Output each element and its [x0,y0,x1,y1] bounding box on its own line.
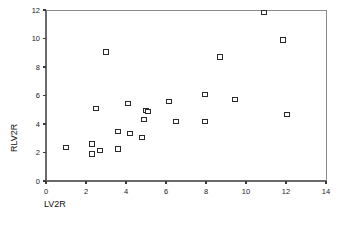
y-tick-label: 0 [36,177,40,186]
x-tick-label: 6 [164,187,168,196]
x-axis-title: LV2R [44,199,66,209]
x-tick-label: 14 [322,187,330,196]
data-point-marker [174,120,178,124]
y-tick-label: 10 [32,34,40,43]
x-tick-label: 8 [204,187,208,196]
data-point-marker [104,50,108,54]
x-tick-label: 10 [242,187,250,196]
plot-canvas: 024681012 02468101214 LV2R RLV2R [0,0,348,229]
data-point-marker [218,55,222,59]
y-tick-label: 12 [32,6,40,15]
data-point-marker [281,38,285,42]
figure-background [0,0,348,229]
data-point-marker [203,120,207,124]
data-point-marker [116,147,120,151]
y-tick-label: 4 [36,120,40,129]
y-tick-label: 6 [36,91,40,100]
y-axis-title: RLV2R [9,123,19,152]
data-point-marker [64,145,68,149]
data-point-marker [233,98,237,102]
data-point-marker [167,99,171,103]
data-point-marker [262,11,266,15]
y-tick-label: 2 [36,148,40,157]
data-point-marker [126,101,130,105]
data-point-marker [94,106,98,110]
data-point-marker [98,148,102,152]
scatter-plot-figure: 024681012 02468101214 LV2R RLV2R [0,0,348,229]
data-point-marker [116,130,120,134]
data-point-marker [142,118,146,122]
data-point-marker [90,152,94,156]
x-tick-label: 2 [84,187,88,196]
data-point-marker [140,135,144,139]
y-tick-label: 8 [36,63,40,72]
data-point-marker [90,142,94,146]
x-tick-label: 12 [282,187,290,196]
x-tick-label: 4 [124,187,128,196]
data-point-marker [146,109,150,113]
x-tick-label: 0 [44,187,48,196]
data-point-marker [203,93,207,97]
data-point-marker [285,113,289,117]
data-point-marker [128,131,132,135]
